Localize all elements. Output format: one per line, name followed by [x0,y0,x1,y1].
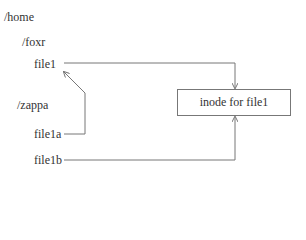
file1b-to-inode-arrow [64,117,235,160]
file1-to-inode-arrow [64,63,235,88]
file1a-to-file1-arrow [64,72,85,134]
inode-label: inode for file1 [177,89,291,116]
